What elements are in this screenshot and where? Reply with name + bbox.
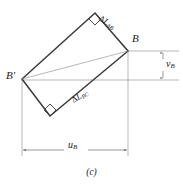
label-b: B [132, 33, 139, 44]
label-v-b: vB [166, 59, 175, 70]
label-b-prime: B' [6, 70, 15, 81]
u-b-subscript: B [73, 143, 77, 150]
figure-container: B' B ΔLAB ΔLBC vB uB (c) [0, 0, 183, 187]
figure-drawing [0, 0, 183, 187]
label-u-b: uB [68, 140, 77, 151]
v-b-subscript: B [170, 62, 174, 69]
figure-caption: (c) [0, 167, 183, 177]
